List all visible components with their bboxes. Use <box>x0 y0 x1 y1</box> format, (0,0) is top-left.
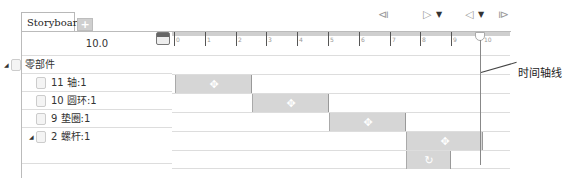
expand-triangle-icon[interactable]: ◢ <box>29 128 34 146</box>
move-icon: ✥ <box>440 136 451 147</box>
assembly-icon <box>11 59 21 71</box>
ruler-tick <box>420 32 421 46</box>
calendar-icon[interactable] <box>156 32 170 45</box>
part-icon <box>36 113 46 125</box>
ruler-tick <box>236 32 237 46</box>
tick-label: 0 <box>176 36 180 43</box>
animation-bar-move[interactable]: ✥ <box>329 113 406 131</box>
expand-triangle-icon[interactable]: ◢ <box>4 56 9 74</box>
tick-label: 10 <box>484 36 492 43</box>
tree-item-empty <box>22 163 172 178</box>
tree-item[interactable]: ◢ 2 螺杆:1 <box>22 127 172 145</box>
tab-storyboard1[interactable]: Storyboard1 <box>21 12 75 31</box>
ruler-bar <box>172 32 510 36</box>
tick-label: 3 <box>268 36 272 43</box>
tree-item-empty <box>22 145 172 163</box>
ruler-tick <box>390 32 391 46</box>
timeline-row: ✥ <box>172 131 510 150</box>
tick-label: 7 <box>392 36 396 43</box>
tick-label: 8 <box>422 36 426 43</box>
tick-label: 5 <box>330 36 334 43</box>
tree-item[interactable]: 10 圆环:1 <box>22 91 172 109</box>
skip-to-end-icon[interactable]: ⧐ <box>498 9 509 21</box>
timeline-row: ✥ <box>172 112 510 131</box>
time-ruler[interactable]: 0 1 2 3 4 5 6 7 8 9 10 <box>172 32 510 52</box>
tick-label: 1 <box>207 36 211 43</box>
tick-label: 6 <box>361 36 365 43</box>
animation-bar-move[interactable]: ✥ <box>175 75 252 93</box>
timeline-row: ✥ <box>172 93 510 112</box>
play-reverse-icon[interactable]: ◁ <box>465 9 473 21</box>
timeline-cursor-line[interactable] <box>480 40 481 165</box>
timeline-row: ✥ <box>172 74 510 93</box>
move-icon: ✥ <box>286 98 297 109</box>
part-icon <box>36 77 46 89</box>
ruler-tick <box>451 32 452 46</box>
tree-item[interactable]: 11 轴:1 <box>22 73 172 91</box>
tick-label: 9 <box>453 36 457 43</box>
part-icon <box>36 95 46 107</box>
timeline-row: ↻ <box>172 150 510 169</box>
move-icon: ✥ <box>363 117 374 128</box>
storyboard-tab-bar: Storyboard1 + ⧏ ▷ ▼ ◁ ▼ ⧐ <box>0 0 571 31</box>
timeline-cursor-annotation: 时间轴线 <box>518 64 562 80</box>
animation-bar-move[interactable]: ✥ <box>406 132 483 150</box>
play-dropdown-icon[interactable]: ▼ <box>436 9 442 21</box>
ruler-tick <box>205 32 206 46</box>
play-forward-icon[interactable]: ▷ <box>423 9 431 21</box>
tick-label: 4 <box>299 36 303 43</box>
move-icon: ✥ <box>209 79 220 90</box>
tick-label: 2 <box>238 36 242 43</box>
ruler-tick <box>266 32 267 46</box>
ruler-tick <box>297 32 298 46</box>
tree-item-root[interactable]: ◢ 零部件 <box>22 55 172 73</box>
rotate-icon: ↻ <box>424 155 435 166</box>
ruler-tick <box>359 32 360 46</box>
skip-to-start-icon[interactable]: ⧏ <box>378 9 389 21</box>
component-tree-panel: 10.0 ◢ 零部件 11 轴:1 10 圆环:1 9 垫圈:1 ◢ 2 螺杆:… <box>21 32 172 178</box>
animation-bar-move[interactable]: ✥ <box>252 94 329 112</box>
timeline-row <box>172 55 510 74</box>
animation-bar-rotate[interactable]: ↻ <box>406 151 451 169</box>
tree-item[interactable]: 9 垫圈:1 <box>22 109 172 127</box>
add-storyboard-button[interactable]: + <box>77 18 93 31</box>
current-time-field[interactable]: 10.0 <box>22 32 172 55</box>
ruler-tick <box>174 32 175 46</box>
timeline-grid: ✥ ✥ ✥ ✥ ↻ <box>172 55 510 165</box>
reverse-dropdown-icon[interactable]: ▼ <box>478 9 484 21</box>
ruler-tick <box>328 32 329 46</box>
part-icon <box>36 131 46 143</box>
